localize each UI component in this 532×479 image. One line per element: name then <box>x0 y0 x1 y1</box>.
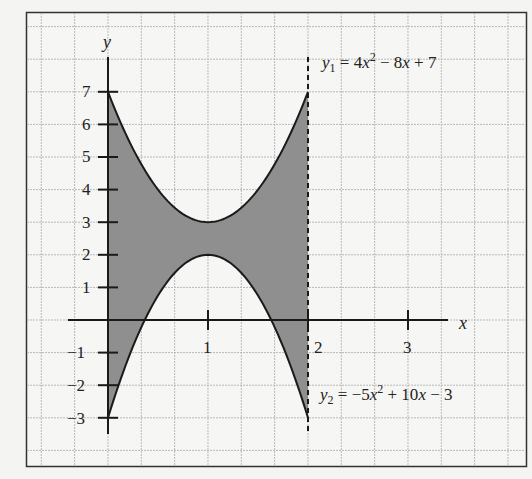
x-axis-label: x <box>458 313 467 333</box>
equation-y2: y2 = −5x2 + 10x − 3 <box>318 382 453 407</box>
x-tick-label: 1 <box>203 338 212 357</box>
y-tick-label: 6 <box>82 115 91 134</box>
y-tick-label: 3 <box>82 213 91 232</box>
y-tick-label: 7 <box>82 82 91 101</box>
y-tick-label: 4 <box>82 180 91 199</box>
x-tick-label: 2 <box>314 338 323 357</box>
x-tick-label: 3 <box>403 338 412 357</box>
y-tick-label: −3 <box>67 409 85 428</box>
y-tick-label: −1 <box>67 343 85 362</box>
y-tick-label: −2 <box>67 376 85 395</box>
equation-y1: y1 = 4x2 − 8x + 7 <box>320 50 437 75</box>
y-tick-label: 2 <box>82 245 91 264</box>
y-axis-label: y <box>101 32 111 52</box>
chart-canvas: y x 7 6 5 4 3 2 1 −1 −2 −3 1 2 3 y1 = 4x… <box>0 0 532 479</box>
y-tick-label: 5 <box>82 147 91 166</box>
y-tick-label: 1 <box>82 278 91 297</box>
